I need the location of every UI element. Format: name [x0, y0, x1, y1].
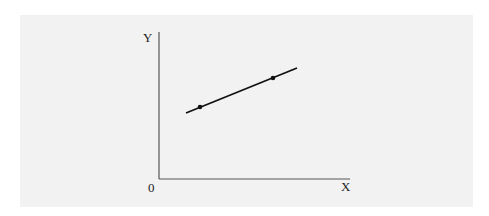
x-axis-label: X — [341, 179, 351, 194]
origin-label: 0 — [148, 180, 155, 195]
data-point-2 — [271, 76, 276, 81]
y-axis-label: Y — [143, 30, 153, 45]
line-diagram: Y 0 X — [0, 0, 489, 216]
data-line — [186, 68, 297, 113]
data-point-1 — [198, 105, 203, 110]
